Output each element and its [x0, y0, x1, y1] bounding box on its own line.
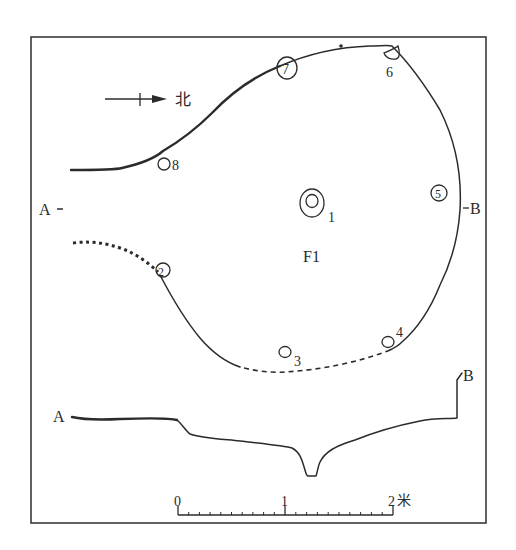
svg-text:B: B [463, 367, 474, 384]
feature-label: F1 [303, 248, 320, 265]
posthole-3: 3 [279, 347, 301, 370]
plan-outline-lower-left [160, 275, 240, 367]
scale-tick-1: 1 [281, 494, 288, 509]
svg-text:2: 2 [158, 265, 164, 279]
svg-text:3: 3 [294, 354, 301, 369]
north-label: 北 [175, 91, 191, 108]
archaeological-plan-diagram: 北 1 2 3 4 5 6 7 8 F1 [0, 0, 516, 550]
svg-text:4: 4 [396, 325, 403, 340]
profile-left-shoulder [72, 417, 177, 420]
plan-outline-lower-dotted [73, 242, 158, 272]
svg-text:8: 8 [172, 158, 179, 173]
plan-outline-bottom-dashed [240, 350, 390, 372]
svg-text:B: B [470, 200, 481, 217]
profile-line [177, 373, 462, 476]
section-marker-a-plan: A [39, 201, 63, 218]
svg-text:1: 1 [328, 210, 335, 225]
scale-tick-2: 2 [388, 494, 395, 509]
scale-tick-0: 0 [174, 494, 181, 509]
scale-bar: 0 1 2 米 [174, 493, 411, 515]
north-arrow: 北 [105, 91, 191, 108]
section-marker-b-plan: B [463, 200, 481, 217]
posthole-1: 1 [300, 189, 335, 225]
posthole-8: 8 [158, 158, 179, 173]
svg-text:5: 5 [435, 187, 441, 201]
scale-unit: 米 [397, 493, 411, 508]
svg-text:6: 6 [386, 65, 393, 80]
section-profile-a-b: A B [53, 367, 474, 476]
posthole-7: 7 [277, 57, 297, 79]
posthole-5: 5 [431, 185, 447, 201]
drawing-frame [31, 37, 486, 523]
plan-outline-upper-left [71, 66, 280, 170]
outline-point-marker [339, 44, 343, 48]
svg-text:A: A [53, 408, 65, 425]
arrowhead-icon [152, 95, 167, 103]
posthole-2: 2 [156, 263, 170, 279]
svg-text:7: 7 [282, 62, 289, 77]
svg-text:A: A [39, 201, 51, 218]
